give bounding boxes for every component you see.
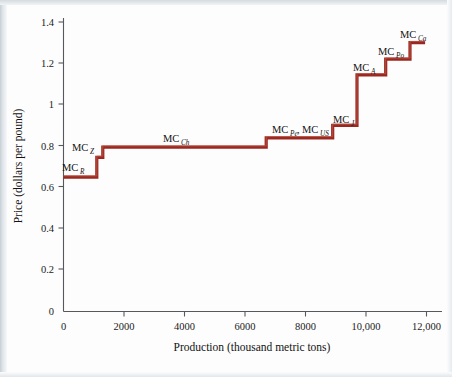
x-tick-label-2000: 2000 — [114, 321, 135, 332]
x-axis-ticks — [124, 312, 427, 317]
x-tick-label-10000: 10,000 — [352, 321, 381, 332]
x-tick-label-8000: 8000 — [295, 321, 316, 332]
x-tick-label-6000: 6000 — [235, 321, 256, 332]
x-tick-label-4000: 4000 — [174, 321, 195, 332]
step-label-mc-ch-sub: Ch — [181, 139, 190, 147]
step-label-mc-po-sub: Po — [395, 52, 404, 60]
y-tick-label-1: 1 — [49, 99, 54, 110]
marginal-cost-step-curve-highlight — [64, 41, 426, 176]
y-tick-label-1.2: 1.2 — [41, 58, 54, 69]
x-axis-tick-labels: 0 2000 4000 6000 8000 10,000 12,000 — [61, 321, 441, 332]
step-label-mc-z-sub: Z — [90, 148, 95, 156]
step-label-joiner: , — [297, 124, 300, 135]
y-tick-label-0.8: 0.8 — [41, 141, 54, 152]
step-label-mc-pe-us: MC Pe , MC US — [272, 124, 329, 138]
step-label-mc-ca-base: MC — [400, 29, 416, 40]
x-axis-title: Production (thousand metric tons) — [174, 341, 331, 354]
step-label-mc-ch-base: MC — [163, 133, 179, 144]
step-label-mc-pe-base: MC — [272, 124, 288, 135]
step-label-mc-z-base: MC — [72, 142, 88, 153]
y-axis-ticks — [59, 22, 64, 269]
y-tick-label-0.6: 0.6 — [41, 182, 54, 193]
y-axis-tick-labels: 1.4 1.2 1 0.8 0.6 0.4 0.2 0 — [41, 17, 55, 317]
step-label-mc-r-sub: R — [79, 168, 85, 176]
step-label-mc-us-base: MC — [302, 124, 318, 135]
step-label-mc-r: MC R — [62, 162, 85, 176]
step-label-mc-us-sub: US — [320, 130, 329, 138]
y-tick-label-1.4: 1.4 — [41, 17, 55, 28]
marginal-cost-step-curve — [64, 43, 426, 178]
x-tick-label-12000: 12,000 — [412, 321, 441, 332]
y-axis-title: Price (dollars per pound) — [12, 109, 25, 224]
step-label-mc-po-base: MC — [378, 46, 394, 57]
y-tick-label-0: 0 — [49, 306, 54, 317]
step-label-mc-ca-sub: Ca — [418, 35, 427, 43]
y-tick-label-0.2: 0.2 — [41, 264, 54, 275]
step-chart: 1.4 1.2 1 0.8 0.6 0.4 0.2 0 0 2000 4000 … — [0, 0, 452, 377]
step-label-mc-j-base: MC — [333, 114, 349, 125]
x-tick-label-0: 0 — [61, 321, 66, 332]
step-label-mc-a-base: MC — [353, 62, 369, 73]
step-label-mc-a-sub: A — [370, 68, 376, 76]
step-label-mc-ch: MC Ch — [163, 133, 190, 147]
figure-page: 1.4 1.2 1 0.8 0.6 0.4 0.2 0 0 2000 4000 … — [0, 0, 452, 377]
step-label-mc-r-base: MC — [62, 162, 78, 173]
y-tick-label-0.4: 0.4 — [41, 223, 55, 234]
step-label-mc-z: MC Z — [72, 142, 95, 156]
